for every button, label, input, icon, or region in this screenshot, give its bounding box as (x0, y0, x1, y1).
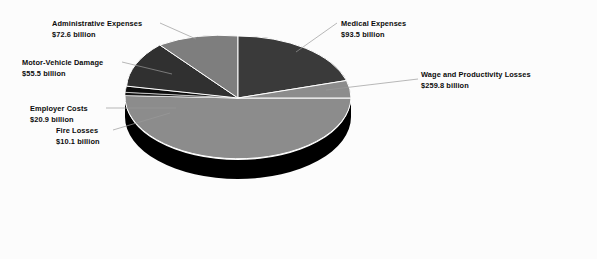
pie-label-name: Motor-Vehicle Damage (22, 58, 103, 67)
pie-label-value: $259.8 billion (421, 81, 531, 92)
pie-label-name: Medical Expenses (341, 19, 406, 28)
pie-label-medical-expenses: Medical Expenses $93.5 billion (341, 19, 406, 40)
pie-label-value: $10.1 billion (56, 137, 100, 148)
pie-label-name: Fire Losses (56, 126, 98, 135)
pie-label-wage-and-productivity-losses: Wage and Productivity Losses $259.8 bill… (421, 70, 531, 91)
pie-label-value: $20.9 billion (30, 115, 88, 126)
pie-label-name: Administrative Expenses (52, 19, 142, 28)
pie-label-employer-costs: Employer Costs $20.9 billion (30, 104, 88, 125)
pie-slices-group (125, 35, 351, 158)
pie-label-value: $93.5 billion (341, 30, 406, 41)
pie-label-fire-losses: Fire Losses $10.1 billion (56, 126, 100, 147)
pie-chart-figure: Administrative Expenses $72.6 billion Mo… (0, 0, 597, 259)
pie-label-name: Wage and Productivity Losses (421, 70, 531, 79)
pie-label-motor-vehicle-damage: Motor-Vehicle Damage $55.5 billion (22, 58, 103, 79)
pie-label-administrative-expenses: Administrative Expenses $72.6 billion (52, 19, 142, 40)
pie-label-name: Employer Costs (30, 104, 88, 113)
leader-line-medical-expenses (296, 23, 337, 52)
pie-label-value: $55.5 billion (22, 69, 103, 80)
pie-label-value: $72.6 billion (52, 30, 142, 41)
leader-line-administrative-expenses (160, 23, 196, 39)
